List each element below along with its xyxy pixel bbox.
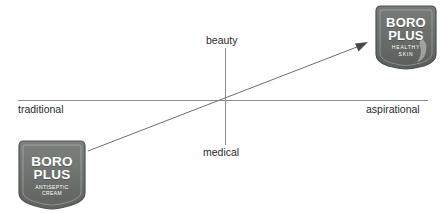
- axis-label-beauty: beauty: [206, 34, 238, 46]
- shield-shape-icon: [14, 139, 90, 211]
- repositioning-arrow-head: [355, 42, 368, 52]
- brand-mark-healthy: BORO PLUS HEALTHY SKIN: [371, 4, 441, 71]
- perceptual-map: traditional aspirational beauty medical …: [0, 0, 445, 213]
- axis-label-medical: medical: [203, 146, 239, 158]
- axis-label-aspirational: aspirational: [366, 103, 420, 115]
- axis-label-traditional: traditional: [18, 103, 64, 115]
- shield-shape-icon: [371, 4, 441, 71]
- brand-mark-antiseptic: BORO PLUS ANTISEPTIC CREAM: [14, 139, 90, 211]
